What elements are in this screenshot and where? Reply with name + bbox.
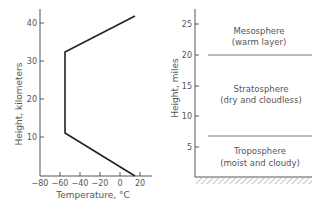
- x-axis-label: Temperature, °C: [55, 190, 130, 200]
- x-ticks: −80 −60 −40 −20 0 20: [32, 172, 146, 188]
- x-tick-label: −60: [52, 179, 69, 188]
- stratosphere-label: Stratosphere: [234, 84, 289, 94]
- mesosphere-description: (warm layer): [232, 37, 286, 47]
- stratosphere-description: (dry and cloudless): [220, 95, 301, 105]
- atmosphere-layers-diagram: 5 10 15 20 25 Height, miles Mesosphere (…: [170, 9, 312, 184]
- troposphere-label: Troposphere: [233, 146, 286, 156]
- y-axis-label: Height, kilometers: [14, 62, 24, 145]
- mesosphere-label: Mesosphere: [233, 26, 284, 36]
- x-tick-label: −40: [72, 179, 89, 188]
- y-tick-label: 10: [27, 133, 37, 142]
- x-tick-label: −20: [92, 179, 109, 188]
- ground-hatching: [196, 178, 312, 184]
- y-tick-label: 15: [182, 82, 192, 91]
- y-tick-label: 5: [187, 143, 192, 152]
- y-tick-label: 20: [182, 51, 192, 60]
- y-tick-label: 10: [182, 112, 192, 121]
- temperature-profile-line: [65, 16, 135, 176]
- y-ticks: 10 20 30 40: [27, 19, 44, 142]
- temperature-chart: 10 20 30 40 −80 −60 −40 −20 0 20 Tempera…: [14, 9, 152, 200]
- y-ticks: 5 10 15 20 25: [182, 20, 199, 152]
- x-tick-label: −80: [32, 179, 49, 188]
- y-tick-label: 30: [27, 57, 37, 66]
- y-tick-label: 25: [182, 20, 192, 29]
- troposphere-description: (moist and cloudy): [220, 158, 300, 168]
- figure: 10 20 30 40 −80 −60 −40 −20 0 20 Tempera…: [0, 0, 329, 208]
- y-tick-label: 40: [27, 19, 37, 28]
- y-axis-label: Height, miles: [170, 58, 180, 118]
- y-tick-label: 20: [27, 95, 37, 104]
- x-tick-label: 0: [117, 179, 122, 188]
- x-tick-label: 20: [135, 179, 145, 188]
